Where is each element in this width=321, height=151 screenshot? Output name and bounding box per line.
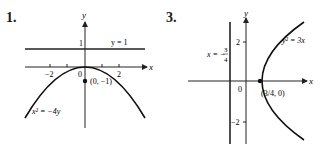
y-tick-label: −2 <box>231 118 240 127</box>
directrix-frac: 4 <box>224 56 228 64</box>
y-tick-label: 2 <box>236 38 240 47</box>
equation-label: y² = 3x <box>281 36 305 45</box>
focus-point <box>83 79 87 83</box>
x-tick-label: 2 <box>117 70 121 79</box>
origin-label: 0 <box>238 85 242 94</box>
graph-panel-1: 1. y x −2 0 2 1 y = 1 (0, −1) x² = −4y <box>0 0 160 151</box>
graph-panel-3: 3. y x 2 −2 0 x = − 3 4 (3/4, 0) y² = 3x <box>160 0 321 151</box>
x-axis-label: x <box>308 76 313 86</box>
y-axis-label: y <box>81 10 86 20</box>
directrix-label: y = 1 <box>111 38 128 47</box>
y-tick-label: 1 <box>79 39 83 48</box>
equation-label: x² = −4y <box>31 107 61 116</box>
directrix-frac: 3 <box>224 46 228 54</box>
x-tick-label: 0 <box>78 70 82 79</box>
y-axis-label: y <box>243 8 248 18</box>
x-tick-label: −2 <box>45 70 54 79</box>
x-axis-label: x <box>148 62 153 72</box>
directrix-label: x = − <box>206 50 225 59</box>
focus-label: (3/4, 0) <box>261 89 285 98</box>
graph-1-plot: y x −2 0 2 1 y = 1 (0, −1) x² = −4y <box>0 0 160 151</box>
focus-label: (0, −1) <box>90 77 112 86</box>
focus-point <box>258 79 262 83</box>
graph-3-plot: y x 2 −2 0 x = − 3 4 (3/4, 0) y² = 3x <box>160 0 321 151</box>
